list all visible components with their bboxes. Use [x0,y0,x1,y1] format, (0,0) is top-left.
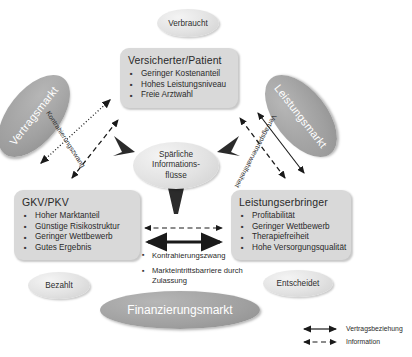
list-item: Hohes Leistungsniveau [128,80,230,91]
list-item: Profitabilität [239,211,343,222]
ellipse-verbraucht-label: Verbraucht [168,19,208,28]
note-markteintrittsbarriere: Markteintrittsbarriere durch Zulassung [141,266,245,285]
box-gkv-pkv-title: GKV/PKV [22,196,132,208]
list-item: Therapiefreiheit [239,232,343,243]
ellipse-sparliche-informationsfluesse: Spärliche Informations- flüsse [133,142,219,189]
dashed-double-arrow-icon [300,336,340,348]
box-leistungserbringer-bullets: Profitabilität Geringer Wettbewerb Thera… [239,211,343,253]
ellipse-verbraucht: Verbraucht [157,9,219,37]
list-item: Hoher Marktanteil [22,211,132,222]
diagram-canvas: Verbraucht Spärliche Informations- flüss… [0,0,412,357]
bottom-notes: Kontrahierungszwang Markteintrittsbarrie… [141,251,245,291]
bottom-connectors [145,228,222,242]
legend-row-information: Information [300,335,410,348]
ellipse-entscheidet-label: Entscheidet [277,279,320,288]
box-versicherter-patient: Versicherter/Patient Geringer Kostenante… [120,48,238,108]
legend-row-vertragsbeziehung: Vertragsbeziehung [300,322,410,335]
ellipse-center-line1: Spärliche [159,150,193,159]
ellipse-center-line3: flüsse [165,171,186,180]
list-item: Gutes Ergebnis [22,243,132,254]
list-item: Freie Arztwahl [128,90,230,101]
box-leistungserbringer: Leistungserbringer Profitabilität Gering… [231,190,351,260]
ellipse-center-text: Spärliche Informations- flüsse [152,150,200,182]
solid-double-arrow-icon [300,323,340,335]
ellipse-center-line2: Informations- [152,160,200,169]
list-item: Geringer Kostenanteil [128,69,230,80]
box-leistungserbringer-title: Leistungserbringer [239,196,343,208]
list-item: Hohe Versorgungsqualität [239,243,343,254]
box-gkv-pkv: GKV/PKV Hoher Marktanteil Günstige Risik… [14,190,140,260]
ellipse-finanzierungsmarkt-label: Finanzierungsmarkt [127,303,232,317]
legend-label-vertragsbeziehung: Vertragsbeziehung [346,325,403,332]
ellipse-bezahlt-label: Bezahlt [45,281,72,290]
legend-label-information: Information [346,338,380,345]
ellipse-bezahlt: Bezahlt [28,272,90,299]
list-item: Geringer Wettbewerb [22,232,132,243]
note-kontrahierungszwang: Kontrahierungszwang [141,251,245,260]
box-gkv-pkv-bullets: Hoher Marktanteil Günstige Risikostruktu… [22,211,132,253]
list-item: Günstige Risikostruktur [22,222,132,233]
legend: Vertragsbeziehung Information [300,322,410,348]
box-versicherter-bullets: Geringer Kostenanteil Hohes Leistungsniv… [128,69,230,101]
ellipse-entscheidet: Entscheidet [263,270,333,297]
ellipse-finanzierungsmarkt: Finanzierungsmarkt [100,291,260,329]
list-item: Geringer Wettbewerb [239,222,343,233]
box-versicherter-title: Versicherter/Patient [128,54,230,66]
